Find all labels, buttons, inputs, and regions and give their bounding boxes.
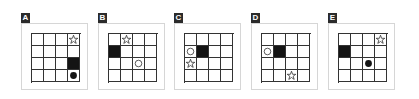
grid-cell: [351, 70, 363, 82]
option-label: B: [98, 13, 107, 23]
option-label: E: [328, 13, 337, 23]
grid-cell: [363, 46, 375, 58]
grid-cell: [363, 34, 375, 46]
grid-cell: [44, 70, 56, 82]
grid-cell: [133, 58, 145, 70]
black-cell: [197, 46, 209, 58]
grid-cell: [209, 70, 221, 82]
grid-cell: [262, 34, 274, 46]
grid-cell: [121, 34, 133, 46]
grid-4x4: [184, 33, 234, 83]
grid-cell: [339, 70, 351, 82]
grid-cell: [298, 34, 310, 46]
grid-cell: [185, 58, 197, 70]
grid-cell: [109, 34, 121, 46]
grid-cell: [145, 34, 157, 46]
black-cell: [274, 46, 286, 58]
grid-cell: [133, 46, 145, 58]
grid-cell: [375, 46, 387, 58]
grid-cell: [298, 58, 310, 70]
grid-cell: [375, 34, 387, 46]
grid-cell: [351, 46, 363, 58]
grid-cell: [109, 58, 121, 70]
grid-cell: [56, 46, 68, 58]
grid-cell: [375, 58, 387, 70]
grid-cell: [221, 46, 233, 58]
grid-cell: [133, 34, 145, 46]
grid-cell: [68, 70, 80, 82]
grid-cell: [375, 70, 387, 82]
grid-cell: [274, 58, 286, 70]
grid-cell: [339, 34, 351, 46]
grid-cell: [121, 58, 133, 70]
option-label: A: [21, 13, 30, 23]
grid-cell: [32, 70, 44, 82]
grid-cell: [56, 70, 68, 82]
grid-4x4: [261, 33, 311, 83]
option-panel-e[interactable]: E: [328, 13, 408, 93]
grid-cell: [209, 34, 221, 46]
grid-cell: [121, 70, 133, 82]
grid-cell: [286, 34, 298, 46]
grid-4x4: [338, 33, 388, 83]
grid-cell: [68, 34, 80, 46]
grid-cell: [221, 34, 233, 46]
option-panel-d[interactable]: D: [251, 13, 331, 93]
grid-cell: [145, 70, 157, 82]
grid-cell: [145, 46, 157, 58]
grid-cell: [363, 70, 375, 82]
grid-cell: [209, 46, 221, 58]
black-cell: [339, 46, 351, 58]
grid-cell: [286, 70, 298, 82]
grid-cell: [32, 34, 44, 46]
grid-cell: [68, 46, 80, 58]
grid-cell: [56, 58, 68, 70]
grid-cell: [185, 46, 197, 58]
grid-cell: [339, 58, 351, 70]
grid-cell: [351, 58, 363, 70]
grid-cell: [185, 70, 197, 82]
grid-cell: [298, 46, 310, 58]
grid-cell: [351, 34, 363, 46]
grid-cell: [56, 34, 68, 46]
grid-cell: [221, 70, 233, 82]
grid-cell: [145, 58, 157, 70]
grid-4x4: [31, 33, 81, 83]
grid-cell: [44, 34, 56, 46]
grid-cell: [286, 46, 298, 58]
grid-cell: [363, 58, 375, 70]
grid-cell: [286, 58, 298, 70]
grid-cell: [44, 46, 56, 58]
black-cell: [68, 58, 80, 70]
grid-cell: [121, 46, 133, 58]
grid-cell: [298, 70, 310, 82]
grid-cell: [262, 58, 274, 70]
grid-4x4: [108, 33, 158, 83]
grid-cell: [274, 70, 286, 82]
option-label: D: [251, 13, 260, 23]
option-panel-b[interactable]: B: [98, 13, 178, 93]
grid-cell: [109, 70, 121, 82]
grid-cell: [262, 46, 274, 58]
grid-cell: [209, 58, 221, 70]
grid-cell: [32, 58, 44, 70]
grid-cell: [197, 34, 209, 46]
black-cell: [109, 46, 121, 58]
grid-cell: [197, 70, 209, 82]
grid-cell: [133, 70, 145, 82]
option-label: C: [174, 13, 183, 23]
grid-cell: [185, 34, 197, 46]
grid-cell: [274, 34, 286, 46]
option-panel-a[interactable]: A: [21, 13, 101, 93]
grid-cell: [197, 58, 209, 70]
grid-cell: [221, 58, 233, 70]
grid-cell: [32, 46, 44, 58]
grid-cell: [262, 70, 274, 82]
option-panel-c[interactable]: C: [174, 13, 254, 93]
grid-cell: [44, 58, 56, 70]
